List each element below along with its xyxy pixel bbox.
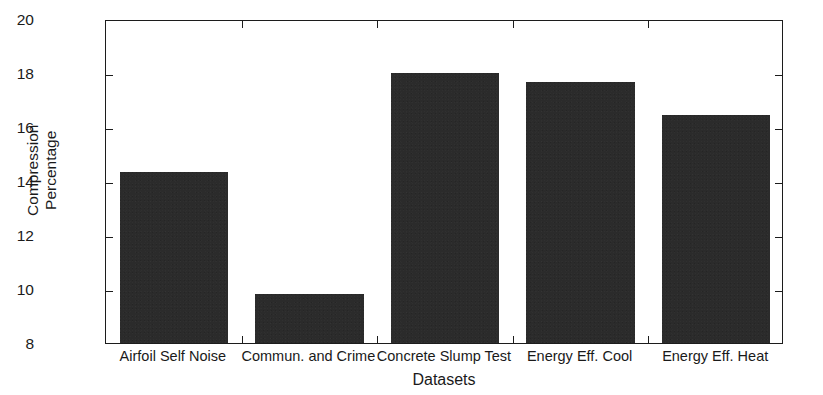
bar xyxy=(120,172,228,343)
bar xyxy=(526,82,634,343)
bar xyxy=(255,294,363,343)
y-axis-tick-label: 8 xyxy=(0,336,34,352)
y-axis-tick-label: 14 xyxy=(0,174,34,190)
x-axis-category-label: Concrete Slump Test xyxy=(366,349,522,365)
y-axis-tick-label: 16 xyxy=(0,120,34,136)
y-axis-tick-label: 12 xyxy=(0,228,34,244)
x-axis-category-label: Commun. and Crime xyxy=(231,349,387,365)
bar xyxy=(662,115,770,343)
bar xyxy=(391,73,499,343)
x-axis-title: Datasets xyxy=(105,371,783,389)
y-axis-tick-label: 10 xyxy=(0,282,34,298)
plot-area xyxy=(105,20,783,344)
y-axis-tick-label: 20 xyxy=(0,12,34,28)
x-axis-category-label: Energy Eff. Cool xyxy=(502,349,658,365)
y-axis-tick-label: 18 xyxy=(0,66,34,82)
x-axis-category-label: Energy Eff. Heat xyxy=(637,349,793,365)
x-axis-category-label: Airfoil Self Noise xyxy=(95,349,251,365)
bar-series xyxy=(106,21,782,343)
y-axis-title-line-2: Percentage xyxy=(42,65,60,275)
bar-chart-figure: Compression Percentage 8101214161820 Air… xyxy=(0,0,823,395)
